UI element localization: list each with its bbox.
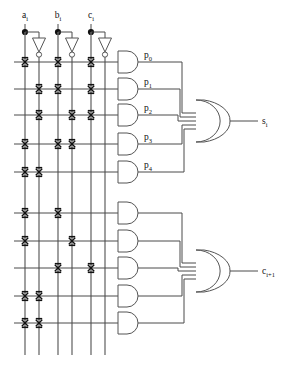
product-to-or-bottom-0 xyxy=(138,213,196,263)
output-label-sum: si xyxy=(262,116,268,128)
and-gate-p2 xyxy=(118,104,138,126)
product-label-p3: p3 xyxy=(144,132,152,144)
or-gate-sum xyxy=(196,100,230,142)
and-gate-carry-0 xyxy=(118,202,138,224)
inverters-group xyxy=(33,32,112,57)
product-to-or-bottom-2 xyxy=(138,268,196,271)
inverter-b xyxy=(66,38,79,52)
and-gate-p0 xyxy=(118,51,138,73)
product-to-or-top-2 xyxy=(138,115,196,121)
product-to-or-bottom-4 xyxy=(138,279,196,323)
inverter-bubble-a xyxy=(36,52,41,57)
input-label-c: ci xyxy=(88,10,94,22)
inverter-bubble-c xyxy=(102,52,107,57)
pla-full-adder-diagram: aibicip0p1p2p3p4sici+1 xyxy=(0,0,281,385)
vertical-lines-group xyxy=(25,32,105,355)
inverter-a xyxy=(33,38,46,52)
and-gate-carry-2 xyxy=(118,257,138,279)
inverter-c xyxy=(99,38,112,52)
and-gate-carry-3 xyxy=(118,285,138,307)
or-gates-group xyxy=(196,100,258,292)
input-stems-group xyxy=(22,24,105,35)
output-label-carry: ci+1 xyxy=(262,266,275,278)
input-label-a: ai xyxy=(22,10,28,22)
and-gate-carry-4 xyxy=(118,312,138,334)
product-to-or-bottom-3 xyxy=(138,275,196,296)
and-gate-p4 xyxy=(118,161,138,183)
circuit-canvas: aibicip0p1p2p3p4sici+1 xyxy=(0,0,281,385)
product-label-p2: p2 xyxy=(144,103,152,115)
input-label-b: bi xyxy=(55,10,62,22)
and-gate-p3 xyxy=(118,133,138,155)
product-label-p0: p0 xyxy=(144,50,152,62)
inverter-bubble-b xyxy=(69,52,74,57)
and-gate-p1 xyxy=(118,78,138,100)
and-gates-group xyxy=(118,51,138,334)
or-gate-carry xyxy=(196,250,230,292)
product-label-p1: p1 xyxy=(144,77,152,89)
product-label-p4: p4 xyxy=(144,160,153,172)
and-gate-carry-1 xyxy=(118,230,138,252)
